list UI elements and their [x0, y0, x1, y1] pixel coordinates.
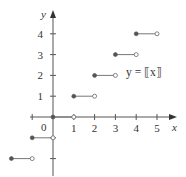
- x-axis-label: x: [171, 121, 177, 133]
- function-label: y = ⟦x⟧: [126, 66, 162, 79]
- y-tick-label: 3: [38, 49, 44, 61]
- open-dot-icon: [51, 136, 55, 140]
- closed-dot-icon: [72, 94, 76, 98]
- x-tick-label: 1: [71, 122, 77, 134]
- origin-label: 0: [41, 121, 47, 133]
- y-tick-label: 1: [38, 90, 44, 102]
- closed-dot-icon: [113, 53, 117, 57]
- x-tick-label: 4: [133, 122, 139, 134]
- step-function-chart: 123451234 x y 0 y = ⟦x⟧: [0, 0, 186, 177]
- x-tick-label: 3: [113, 122, 119, 134]
- open-dot-icon: [134, 53, 138, 57]
- step-segments: [9, 32, 159, 161]
- x-axis-arrow-icon: [169, 114, 177, 120]
- open-dot-icon: [155, 32, 159, 36]
- x-tick-label: 5: [154, 122, 160, 134]
- open-dot-icon: [30, 157, 34, 161]
- closed-dot-icon: [134, 32, 138, 36]
- closed-dot-icon: [9, 157, 13, 161]
- open-dot-icon: [93, 94, 97, 98]
- closed-dot-icon: [93, 73, 97, 77]
- open-dot-icon: [113, 73, 117, 77]
- open-dot-icon: [72, 115, 76, 119]
- y-axis-label: y: [40, 8, 46, 20]
- closed-dot-icon: [51, 115, 55, 119]
- x-tick-label: 2: [92, 122, 98, 134]
- closed-dot-icon: [30, 136, 34, 140]
- y-tick-label: 4: [38, 28, 44, 40]
- y-tick-label: 2: [38, 69, 44, 81]
- y-axis-arrow-icon: [50, 10, 56, 18]
